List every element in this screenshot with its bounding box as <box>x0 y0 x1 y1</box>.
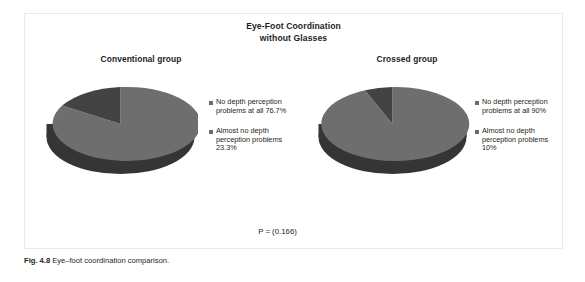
legend-item: No depth perception problems at all 76.7… <box>209 98 295 115</box>
legend-item: No depth perception problems at all 90% <box>475 98 563 115</box>
chart-panel: Eye-Foot Coordination without Glasses Co… <box>24 13 563 249</box>
legend-label: No depth perception problems at all 90% <box>482 98 563 115</box>
group-label-conventional: Conventional group <box>7 54 275 64</box>
legend-item: Almost no depth perception problems 23.3… <box>209 127 295 153</box>
figure-caption-number: Fig. 4.8 <box>24 256 50 265</box>
figure-container: Eye-Foot Coordination without Glasses Co… <box>0 0 585 282</box>
legend-swatch-icon <box>475 101 479 105</box>
pie-chart-crossed <box>315 80 470 180</box>
legend-item: Almost no depth perception problems 10% <box>475 127 563 153</box>
pie-group-conventional: Conventional group <box>31 54 299 224</box>
figure-caption: Fig. 4.8Eye–foot coordination comparison… <box>24 256 563 266</box>
p-value-annotation: P = (0.166) <box>9 227 546 236</box>
legend-swatch-icon <box>209 101 213 105</box>
pie-chart-conventional-svg <box>43 80 198 180</box>
legend-swatch-icon <box>209 130 213 134</box>
legend-swatch-icon <box>475 130 479 134</box>
legend-label: No depth perception problems at all 76.7… <box>216 98 295 115</box>
pie-chart-crossed-svg <box>315 80 470 180</box>
group-label-crossed: Crossed group <box>275 54 539 64</box>
legend-conventional: No depth perception problems at all 76.7… <box>209 98 295 165</box>
legend-label: Almost no depth perception problems 10% <box>482 127 563 153</box>
chart-title: Eye-Foot Coordination without Glasses <box>25 21 562 44</box>
pie-slice-no-depth-problems-right <box>321 87 469 161</box>
pie-group-crossed: Crossed group <box>297 54 561 224</box>
legend-label: Almost no depth perception problems 23.3… <box>216 127 295 153</box>
chart-title-line-1: Eye-Foot Coordination <box>25 21 562 33</box>
legend-crossed: No depth perception problems at all 90% … <box>475 98 563 165</box>
pie-chart-conventional <box>43 80 198 180</box>
figure-caption-text: Eye–foot coordination comparison. <box>52 256 169 265</box>
chart-title-line-2: without Glasses <box>25 33 562 45</box>
